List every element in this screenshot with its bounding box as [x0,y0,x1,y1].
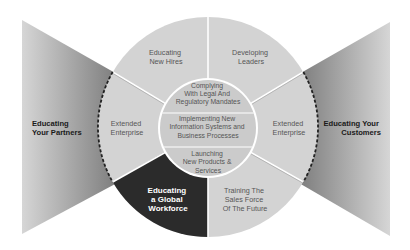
label-sales-force: Training The Sales Force Of The Future [223,186,268,213]
label-extended-enterprise-left: Extended Enterprise [111,119,144,137]
learning-strategy-diagram: Educating New Hires Developing Leaders E… [0,0,410,250]
label-new-hires: Educating New Hires [149,48,183,66]
label-global-workforce: Educating a Global Workforce [148,186,189,213]
label-extended-enterprise-right: Extended Enterprise [273,119,306,137]
label-information-systems: Implementing New Information Systems and… [169,115,246,139]
